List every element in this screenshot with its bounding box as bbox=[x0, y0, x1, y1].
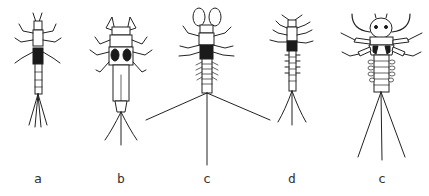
figure-label-c: c bbox=[203, 171, 211, 186]
nymph-illustration-plate bbox=[0, 0, 429, 196]
figure-a-nymph bbox=[15, 13, 61, 127]
figure-b-nymph bbox=[90, 17, 152, 145]
figure-label-a: a bbox=[34, 171, 42, 186]
figure-c-nymph bbox=[146, 8, 270, 165]
figure-d-nymph bbox=[270, 15, 313, 125]
figure-label-e: c bbox=[378, 171, 386, 186]
figure-e-nymph bbox=[341, 14, 422, 160]
figure-label-d: d bbox=[288, 171, 296, 186]
figure-label-b: b bbox=[117, 171, 125, 186]
